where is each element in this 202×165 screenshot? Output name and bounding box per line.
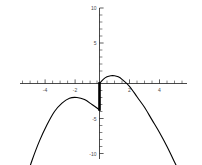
x-tick-label-neg4: -4 xyxy=(43,87,48,93)
plot-canvas: -4 -2 2 4 xyxy=(0,0,202,165)
curve-group xyxy=(25,76,181,165)
y-tick-label-neg10: -10 xyxy=(89,151,96,157)
y-axis-tick-labels: 10 5 -5 -10 xyxy=(89,5,96,157)
y-tick-label-pos10: 10 xyxy=(91,5,97,11)
x-tick-label-pos4: 4 xyxy=(158,87,161,93)
x-axis-tick-labels: -4 -2 2 4 xyxy=(43,87,161,93)
function-plot-figure: -4 -2 2 4 xyxy=(0,0,202,165)
curve-right-branch xyxy=(100,76,181,165)
x-tick-label-neg2: -2 xyxy=(73,87,78,93)
y-tick-label-neg5: -5 xyxy=(92,116,97,122)
curve-left-branch xyxy=(25,97,100,165)
y-tick-label-pos5: 5 xyxy=(94,40,97,46)
